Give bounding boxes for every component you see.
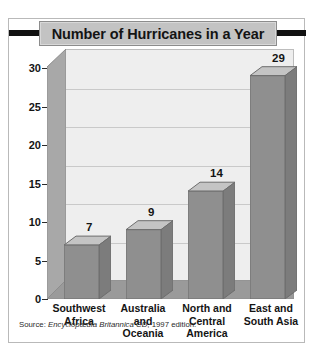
bar-front-face — [126, 230, 161, 299]
x-category-line: Australia — [111, 302, 175, 315]
bar-side-face — [285, 67, 297, 299]
plot-area: 051015202530 791429 — [21, 49, 294, 299]
bar-shape — [250, 49, 297, 299]
source-title: Encyclopædia Britannica CD — [48, 320, 147, 329]
source-prefix: Source: — [19, 320, 48, 329]
y-tick-label: 30 — [29, 62, 41, 74]
x-category-line: Southwest — [47, 302, 111, 315]
bar-side-face — [99, 236, 111, 299]
bar-front-face — [188, 191, 223, 299]
y-tick — [42, 299, 48, 300]
source-note: Source: Encyclopædia Britannica CD, 1997… — [19, 320, 294, 329]
bar-front-face — [64, 245, 99, 299]
x-category-line: North and — [175, 302, 239, 315]
bar-side-face — [161, 221, 173, 299]
bar: 9 — [126, 49, 173, 299]
y-axis: 051015202530 — [21, 49, 47, 299]
y-tick-label: 20 — [29, 139, 41, 151]
bar: 14 — [188, 49, 235, 299]
bar: 7 — [64, 49, 111, 299]
bar-shape — [126, 49, 173, 299]
bar-value-label: 14 — [210, 167, 223, 179]
bar-value-label: 7 — [86, 221, 92, 233]
page-title: Number of Hurricanes in a Year — [52, 26, 265, 42]
source-suffix: , 1997 edition. — [147, 320, 196, 329]
bar-value-label: 9 — [148, 206, 154, 218]
bar-front-face — [250, 76, 285, 299]
bars-group: 791429 — [47, 49, 294, 299]
y-tick-label: 5 — [35, 255, 41, 267]
y-tick-label: 25 — [29, 101, 41, 113]
y-tick-label: 15 — [29, 178, 41, 190]
chart-3d-box: 791429 — [47, 49, 294, 299]
bar-value-label: 29 — [272, 52, 285, 64]
chart-figure: Number of Hurricanes in a Year 051015202… — [8, 18, 305, 343]
x-category-line: East and — [239, 302, 303, 315]
y-tick-label: 0 — [35, 293, 41, 305]
bar: 29 — [250, 49, 297, 299]
bar-shape — [64, 49, 111, 299]
y-tick-label: 10 — [29, 216, 41, 228]
bar-side-face — [223, 182, 235, 299]
chart-title-banner: Number of Hurricanes in a Year — [39, 21, 277, 46]
